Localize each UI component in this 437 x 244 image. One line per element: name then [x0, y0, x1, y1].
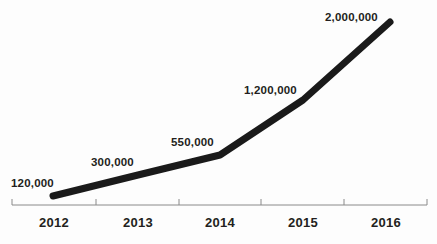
- growth-line-chart: 120,000 300,000 550,000 1,200,000 2,000,…: [0, 0, 437, 244]
- chart-canvas: [0, 0, 437, 244]
- x-axis-ticks: [12, 199, 427, 205]
- data-point-label-2015: 1,200,000: [244, 84, 297, 96]
- data-point-label-2012: 120,000: [11, 177, 54, 189]
- data-point-label-2013: 300,000: [91, 156, 134, 168]
- data-point-label-2016: 2,000,000: [325, 11, 378, 23]
- x-axis-label-2015: 2015: [275, 216, 331, 230]
- x-axis-label-2016: 2016: [358, 216, 414, 230]
- data-series-line: [53, 22, 390, 196]
- x-axis-label-2012: 2012: [26, 216, 82, 230]
- data-point-label-2014: 550,000: [171, 136, 214, 148]
- x-axis-label-2013: 2013: [110, 216, 166, 230]
- x-axis-label-2014: 2014: [192, 216, 248, 230]
